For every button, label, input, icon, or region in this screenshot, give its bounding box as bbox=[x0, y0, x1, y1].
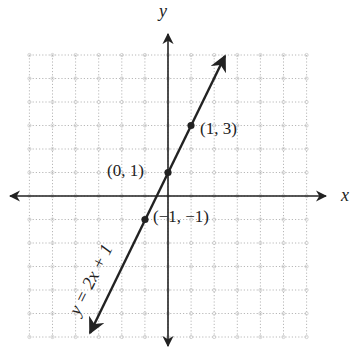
line-y-equals-2x-plus-1 bbox=[90, 56, 225, 333]
y-axis-label: y bbox=[157, 1, 167, 21]
point-neg1-neg1 bbox=[141, 216, 148, 223]
point-label-neg1-neg1: (−1, −1) bbox=[153, 207, 209, 226]
x-axis-label: x bbox=[340, 185, 349, 205]
point-0-1 bbox=[164, 169, 171, 176]
point-label-0-1: (0, 1) bbox=[107, 161, 144, 180]
point-label-1-3: (1, 3) bbox=[200, 119, 237, 138]
equation-label: y = 2x + 1 bbox=[64, 241, 117, 320]
point-1-3 bbox=[187, 122, 194, 129]
coordinate-plane: x y (1, 3) (0, 1) (−1, −1) y = 2x + 1 bbox=[0, 0, 351, 349]
